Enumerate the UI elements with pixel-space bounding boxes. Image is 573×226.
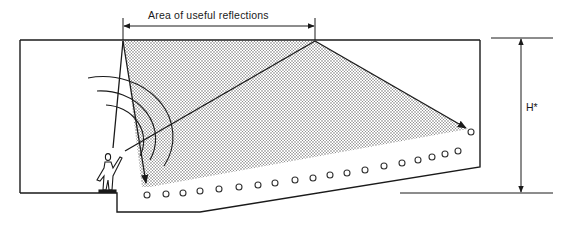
useful-area-dimension: [123, 18, 315, 40]
reflection-diagram: [0, 0, 573, 226]
height-label: H*: [526, 101, 538, 113]
speaker-figure-icon: [97, 154, 122, 193]
useful-reflections-label: Area of useful reflections: [148, 9, 269, 21]
useful-reflection-area: [124, 41, 468, 187]
